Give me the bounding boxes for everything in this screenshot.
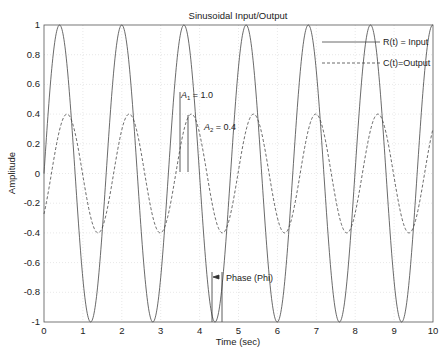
chart-title: Sinusoidal Input/Output [189, 10, 288, 21]
legend-output-label: C(t)=Output [383, 58, 431, 68]
y-tick-label: 1 [35, 19, 40, 30]
y-tick-label: 0.6 [27, 78, 40, 89]
x-tick-label: 8 [353, 325, 358, 336]
y-tick-label: 0.8 [27, 49, 40, 60]
y-tick-label: 0.2 [27, 138, 40, 149]
y-tick-label: -1 [32, 316, 40, 327]
legend-input-label: R(t) = Input [383, 37, 429, 47]
tick-labels: 01234567891010.80.60.40.20-0.2-0.4-0.6-0… [24, 19, 439, 336]
a2-annotation: A2 = 0.4 [203, 122, 236, 133]
x-tick-label: 3 [158, 325, 163, 336]
sinusoid-chart: 01234567891010.80.60.40.20-0.2-0.4-0.6-0… [0, 0, 448, 359]
y-tick-label: -0.6 [24, 257, 40, 268]
phase-arrow-icon [213, 275, 219, 279]
x-axis-label: Time (sec) [216, 336, 261, 347]
y-tick-label: -0.2 [24, 197, 40, 208]
x-tick-label: 6 [275, 325, 280, 336]
x-tick-label: 7 [314, 325, 319, 336]
y-tick-label: 0 [35, 168, 40, 179]
x-tick-label: 9 [391, 325, 396, 336]
phase-annotation: Phase (Phi) [226, 273, 273, 283]
x-tick-label: 2 [119, 325, 124, 336]
x-tick-label: 0 [41, 325, 46, 336]
y-tick-label: -0.8 [24, 286, 40, 297]
a1-annotation: A1 = 1.0 [180, 90, 213, 101]
y-tick-label: -0.4 [24, 227, 40, 238]
x-tick-label: 4 [197, 325, 202, 336]
x-tick-label: 1 [80, 325, 85, 336]
x-tick-label: 5 [236, 325, 241, 336]
y-axis-label: Amplitude [6, 152, 17, 194]
y-tick-label: 0.4 [27, 108, 40, 119]
x-tick-label: 10 [428, 325, 439, 336]
